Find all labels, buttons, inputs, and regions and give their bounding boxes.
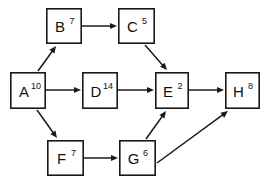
node-g[interactable]: G6 bbox=[120, 141, 155, 175]
edge-g-to-e bbox=[146, 111, 166, 139]
edge-b-to-c bbox=[82, 23, 117, 29]
arrowhead-icon bbox=[110, 23, 117, 29]
node-b[interactable]: B7 bbox=[47, 9, 81, 43]
edge-g-to-h bbox=[157, 111, 228, 163]
edge-line bbox=[37, 110, 54, 133]
arrowhead-icon bbox=[221, 111, 228, 118]
node-weight: 5 bbox=[142, 16, 147, 26]
arrowhead-icon bbox=[217, 87, 224, 93]
node-label: B bbox=[55, 18, 65, 35]
edge-f-to-g bbox=[84, 155, 118, 161]
edge-c-to-e bbox=[145, 45, 167, 70]
edge-a-to-d bbox=[46, 87, 81, 93]
node-e[interactable]: E2 bbox=[156, 73, 188, 108]
edge-line bbox=[146, 116, 163, 139]
node-h[interactable]: H8 bbox=[226, 73, 259, 108]
node-label: A bbox=[19, 83, 29, 100]
arrowhead-icon bbox=[50, 131, 57, 138]
node-label: D bbox=[91, 83, 102, 100]
node-weight: 7 bbox=[69, 16, 74, 26]
graph-diagram: A10B7C5D14E2F7G6H8 bbox=[0, 0, 265, 184]
edge-line bbox=[38, 51, 53, 71]
node-weight: 6 bbox=[143, 148, 148, 158]
arrowhead-icon bbox=[159, 111, 166, 118]
node-c[interactable]: C5 bbox=[119, 9, 154, 43]
arrowhead-icon bbox=[111, 155, 118, 161]
node-label: C bbox=[127, 18, 138, 35]
edge-d-to-e bbox=[118, 87, 154, 93]
node-a[interactable]: A10 bbox=[11, 73, 45, 108]
edge-a-to-b bbox=[38, 46, 56, 71]
node-label: F bbox=[57, 150, 66, 167]
node-f[interactable]: F7 bbox=[48, 141, 83, 175]
node-weight: 14 bbox=[103, 81, 113, 91]
edge-line bbox=[157, 114, 223, 163]
edge-a-to-f bbox=[37, 110, 57, 138]
graph-canvas: A10B7C5D14E2F7G6H8 bbox=[0, 0, 265, 184]
node-label: E bbox=[163, 83, 173, 100]
arrowhead-icon bbox=[74, 87, 81, 93]
node-weight: 8 bbox=[248, 81, 253, 91]
node-d[interactable]: D14 bbox=[83, 73, 117, 108]
arrowhead-icon bbox=[49, 46, 56, 53]
arrowhead-icon bbox=[147, 87, 154, 93]
node-weight: 7 bbox=[71, 148, 76, 158]
node-weight: 10 bbox=[31, 81, 41, 91]
node-label: H bbox=[233, 83, 244, 100]
node-label: G bbox=[128, 150, 140, 167]
edge-e-to-h bbox=[189, 87, 224, 93]
edge-line bbox=[145, 45, 163, 66]
node-weight: 2 bbox=[177, 81, 182, 91]
nodes-layer: A10B7C5D14E2F7G6H8 bbox=[11, 9, 259, 175]
